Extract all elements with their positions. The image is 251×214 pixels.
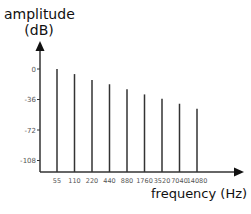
x-tick-label: 1760	[136, 177, 153, 185]
x-tick-label: 440	[103, 177, 115, 185]
x-tick-label: 880	[121, 177, 133, 185]
spectrum-chart: 0-36-72-108 5511022044088017603520704014…	[0, 0, 251, 214]
y-tick-label: -72	[25, 127, 36, 135]
x-tick-label: 220	[86, 177, 98, 185]
x-axis-arrow-icon	[234, 168, 244, 177]
x-tick-label: 55	[53, 177, 61, 185]
x-tick-label: 110	[68, 177, 80, 185]
axes	[36, 41, 245, 177]
x-tick-label: 3520	[154, 177, 171, 185]
x-tick-label: 14080	[187, 177, 208, 185]
y-tick-label: -36	[25, 96, 37, 104]
y-tick-label: 0	[32, 66, 36, 74]
x-tick-label: 7040	[171, 177, 188, 185]
bars	[57, 69, 197, 172]
y-tick-label: -108	[20, 157, 36, 165]
y-axis-arrow-icon	[36, 41, 45, 51]
y-ticks: 0-36-72-108	[20, 66, 40, 166]
x-ticks: 5511022044088017603520704014080	[53, 177, 207, 185]
